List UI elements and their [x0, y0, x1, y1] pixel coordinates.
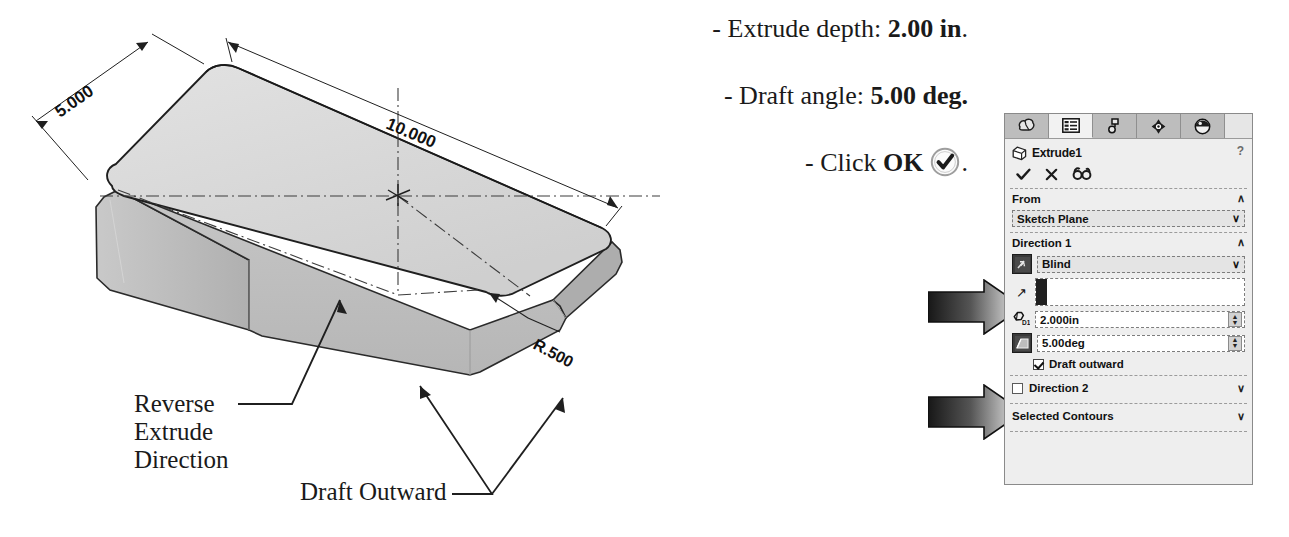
draft-angle-icon	[1015, 336, 1030, 351]
svg-text:D1: D1	[1022, 319, 1030, 326]
section-label-from: From	[1012, 193, 1041, 205]
property-list-icon	[1062, 118, 1080, 133]
direction-of-extrusion-selectbox[interactable]	[1035, 278, 1245, 306]
property-manager-header: Extrude1 ?	[1005, 139, 1252, 185]
property-manager-panel: Extrude1 ? F	[1004, 113, 1253, 485]
instruction-extrude-depth: - Extrude depth: 2.00 in.	[548, 14, 968, 45]
property-manager-tab[interactable]	[1049, 114, 1093, 138]
appearance-sphere-icon	[1194, 118, 1211, 135]
dimxpert-manager-tab[interactable]	[1137, 114, 1181, 138]
direction2-checkbox[interactable]	[1012, 383, 1023, 394]
callout-draft-outward: Draft Outward	[300, 478, 446, 506]
configuration-icon	[1107, 118, 1123, 134]
instruction-list: - Extrude depth: 2.00 in. - Draft angle:…	[548, 14, 968, 185]
draft-angle-spinbox[interactable]: 5.00deg ▲ ▼	[1037, 335, 1245, 352]
section-label-direction1: Direction 1	[1012, 237, 1071, 249]
section-label-direction2: Direction 2	[1029, 382, 1088, 394]
direction-vector-row: ↗	[1005, 276, 1252, 308]
spinner-down-icon[interactable]: ▼	[1232, 320, 1239, 326]
end-condition-row: Blind ∨	[1005, 252, 1252, 276]
depth-d1-icon: D1	[1012, 310, 1030, 326]
depth-dimension-icon: D1	[1012, 310, 1030, 329]
reverse-direction-button[interactable]	[1012, 254, 1032, 274]
dimension-label-width: 5.000	[51, 81, 97, 121]
draft-outward-row[interactable]: Draft outward	[1005, 355, 1252, 372]
chevron-up-icon-from[interactable]: ∧	[1237, 192, 1245, 205]
section-label-selected-contours: Selected Contours	[1012, 410, 1114, 422]
solid-body-icon	[1017, 118, 1036, 134]
help-button[interactable]: ?	[1237, 144, 1244, 158]
property-manager-action-row	[1012, 163, 1246, 185]
chevron-down-icon-from-combo[interactable]: ∨	[1232, 212, 1240, 225]
display-manager-tab[interactable]	[1181, 114, 1225, 138]
draft-angle-row: 5.00deg ▲ ▼	[1005, 331, 1252, 355]
extrude-box-icon	[1012, 146, 1027, 161]
instruction-click-ok-prefix: - Click	[805, 148, 883, 177]
draft-angle-button[interactable]	[1012, 333, 1032, 353]
instruction-draft-angle-value: 5.00 deg.	[871, 81, 969, 110]
feature-title-row: Extrude1 ?	[1012, 143, 1246, 163]
instruction-draft-angle: - Draft angle: 5.00 deg.	[548, 81, 968, 112]
draft-outward-label: Draft outward	[1049, 358, 1124, 370]
spinner-down-icon[interactable]: ▼	[1232, 343, 1239, 349]
property-manager-tab-strip	[1005, 114, 1252, 139]
tab-strip-filler	[1225, 114, 1252, 138]
ok-checkmark-icon	[930, 147, 960, 185]
instruction-click-ok-suffix: .	[962, 148, 969, 177]
section-header-from[interactable]: From ∧	[1005, 189, 1252, 208]
callout-reverse-extrude-direction: Reverse Extrude Direction	[134, 390, 228, 474]
configuration-manager-tab[interactable]	[1093, 114, 1137, 138]
instruction-click-ok: - Click OK .	[548, 147, 968, 185]
chevron-down-icon-selected-contours[interactable]: ∨	[1237, 410, 1245, 423]
reverse-direction-icon	[1015, 257, 1030, 272]
chevron-down-icon-direction2[interactable]: ∨	[1237, 382, 1245, 395]
chevron-down-icon-end-condition[interactable]: ∨	[1232, 258, 1240, 271]
section-header-direction2[interactable]: Direction 2 ∨	[1005, 376, 1252, 400]
instruction-extrude-depth-suffix: .	[962, 14, 969, 43]
cancel-button[interactable]	[1045, 168, 1058, 181]
figure-canvas: 5.000 10.000 R.500	[0, 0, 1289, 537]
depth-value: 2.000in	[1040, 314, 1079, 326]
section-header-direction1[interactable]: Direction 1 ∧	[1005, 233, 1252, 252]
draft-outward-checkbox[interactable]	[1033, 359, 1044, 370]
dimxpert-target-icon	[1150, 118, 1167, 135]
feature-manager-tab[interactable]	[1005, 114, 1049, 138]
end-condition-combo[interactable]: Blind ∨	[1037, 256, 1245, 273]
feature-title: Extrude1	[1032, 146, 1082, 160]
draft-angle-value: 5.00deg	[1042, 337, 1085, 349]
instruction-extrude-depth-value: 2.00 in	[888, 14, 962, 43]
depth-spinner[interactable]: ▲ ▼	[1228, 312, 1242, 327]
depth-row: D1 2.000in ▲ ▼	[1005, 308, 1252, 331]
draft-angle-spinner[interactable]: ▲ ▼	[1228, 336, 1242, 351]
instruction-extrude-depth-prefix: - Extrude depth:	[712, 14, 887, 43]
instruction-draft-angle-prefix: - Draft angle:	[724, 81, 871, 110]
preview-glasses-button[interactable]	[1072, 167, 1092, 181]
accept-ok-button[interactable]	[1016, 168, 1031, 181]
from-condition-row: Sketch Plane ∨	[1005, 208, 1252, 229]
chevron-up-icon-direction1[interactable]: ∧	[1237, 236, 1245, 249]
instruction-click-ok-value: OK	[883, 148, 923, 177]
divider-bottom	[1010, 431, 1247, 432]
dimension-label-radius: R.500	[531, 336, 577, 371]
from-condition-value: Sketch Plane	[1017, 213, 1089, 225]
end-condition-value: Blind	[1042, 258, 1071, 270]
depth-spinbox[interactable]: 2.000in ▲ ▼	[1035, 311, 1245, 328]
from-condition-combo[interactable]: Sketch Plane ∨	[1012, 210, 1245, 227]
section-header-selected-contours[interactable]: Selected Contours ∨	[1005, 404, 1252, 428]
direction-vector-arrow-icon: ↗	[1012, 285, 1030, 300]
